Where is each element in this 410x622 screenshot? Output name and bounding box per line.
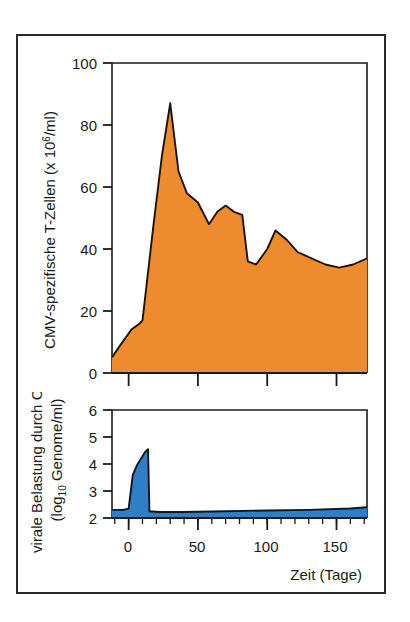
upper-area-fill xyxy=(112,103,367,373)
lower-y-axis-title-line2-post: Genome/ml) xyxy=(48,399,65,486)
lower-y-axis-title-line1: virale Belastung durch CMV xyxy=(28,392,45,553)
lower-ytick-label-3: 3 xyxy=(89,483,97,500)
lower-chart-panel: virale Belastung durch CMV (log10 Genome… xyxy=(0,392,410,622)
upper-y-axis-title-tail: /ml) xyxy=(41,111,58,136)
figure-container: CMV-spezifische T-Zellen (x 106/ml) 100 … xyxy=(0,0,410,622)
upper-ytick-label-100: 100 xyxy=(72,55,97,72)
upper-ytick-label-40: 40 xyxy=(80,241,97,258)
upper-chart-panel: CMV-spezifische T-Zellen (x 106/ml) 100 … xyxy=(0,0,410,400)
lower-xtick-label-100: 100 xyxy=(253,538,278,555)
upper-y-axis-title-main: CMV-spezifische T-Zellen (x 10 xyxy=(41,142,58,349)
upper-x-ticks xyxy=(129,373,337,386)
upper-ytick-label-60: 60 xyxy=(80,179,97,196)
lower-ytick-label-4: 4 xyxy=(89,456,97,473)
upper-y-ticks xyxy=(103,63,112,373)
lower-x-axis-title: Zeit (Tage) xyxy=(290,566,362,583)
upper-ytick-label-0: 0 xyxy=(89,365,97,382)
lower-y-axis-title-line2-sub: 10 xyxy=(57,485,68,497)
lower-y-ticks xyxy=(103,410,112,518)
lower-xtick-label-50: 50 xyxy=(189,538,206,555)
lower-ytick-label-5: 5 xyxy=(89,429,97,446)
lower-xtick-label-150: 150 xyxy=(322,538,347,555)
lower-ytick-label-2: 2 xyxy=(89,510,97,527)
lower-xtick-label-0: 0 xyxy=(124,538,132,555)
lower-y-axis-title-line2-pre: (log xyxy=(48,496,65,521)
lower-area-outline xyxy=(112,449,367,512)
upper-ytick-label-80: 80 xyxy=(80,117,97,134)
lower-plot-frame xyxy=(112,410,367,518)
lower-x-ticks-major xyxy=(129,518,337,530)
upper-y-axis-title: CMV-spezifische T-Zellen (x 106/ml) xyxy=(41,111,58,349)
upper-ytick-label-20: 20 xyxy=(80,303,97,320)
lower-y-axis-title-line2: (log10 Genome/ml) xyxy=(48,399,68,522)
lower-ytick-label-6: 6 xyxy=(89,402,97,419)
